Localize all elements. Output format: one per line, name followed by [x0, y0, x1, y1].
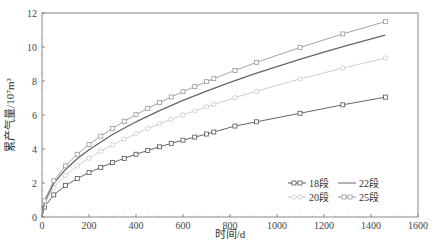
y-tick-label: 4	[32, 144, 37, 155]
x-tick-label: 1000	[267, 220, 287, 231]
legend: 18段22段20段25段	[288, 177, 379, 203]
y-tick-label: 2	[32, 178, 37, 189]
chart: 02004006008001000120014001600024681012 1…	[0, 0, 437, 249]
y-tick-label: 0	[32, 212, 37, 223]
y-axis-label: 累产气量/10⁷m³	[3, 77, 16, 151]
y-tick-label: 10	[27, 42, 37, 53]
x-axis-label: 时间/d	[215, 228, 246, 240]
svg-text:22段: 22段	[359, 177, 379, 189]
x-tick-label: 400	[129, 220, 144, 231]
legend-item: 20段	[288, 191, 329, 203]
legend-item: 25段	[338, 191, 379, 203]
series-22段	[42, 35, 385, 217]
svg-text:25段: 25段	[359, 191, 379, 203]
y-tick-label: 6	[32, 110, 37, 121]
svg-text:20段: 20段	[309, 191, 329, 203]
x-tick-label: 1400	[361, 220, 381, 231]
series-18段	[42, 95, 388, 217]
series-group	[42, 20, 388, 218]
svg-text:18段: 18段	[309, 177, 329, 189]
y-tick-label: 12	[27, 8, 37, 19]
x-tick-label: 600	[176, 220, 191, 231]
x-tick-label: 0	[40, 220, 45, 231]
legend-item: 22段	[338, 177, 379, 189]
x-tick-label: 1600	[408, 220, 428, 231]
y-tick-label: 8	[32, 76, 37, 87]
x-tick-label: 200	[82, 220, 97, 231]
x-tick-label: 1200	[314, 220, 334, 231]
legend-item: 18段	[288, 177, 329, 189]
